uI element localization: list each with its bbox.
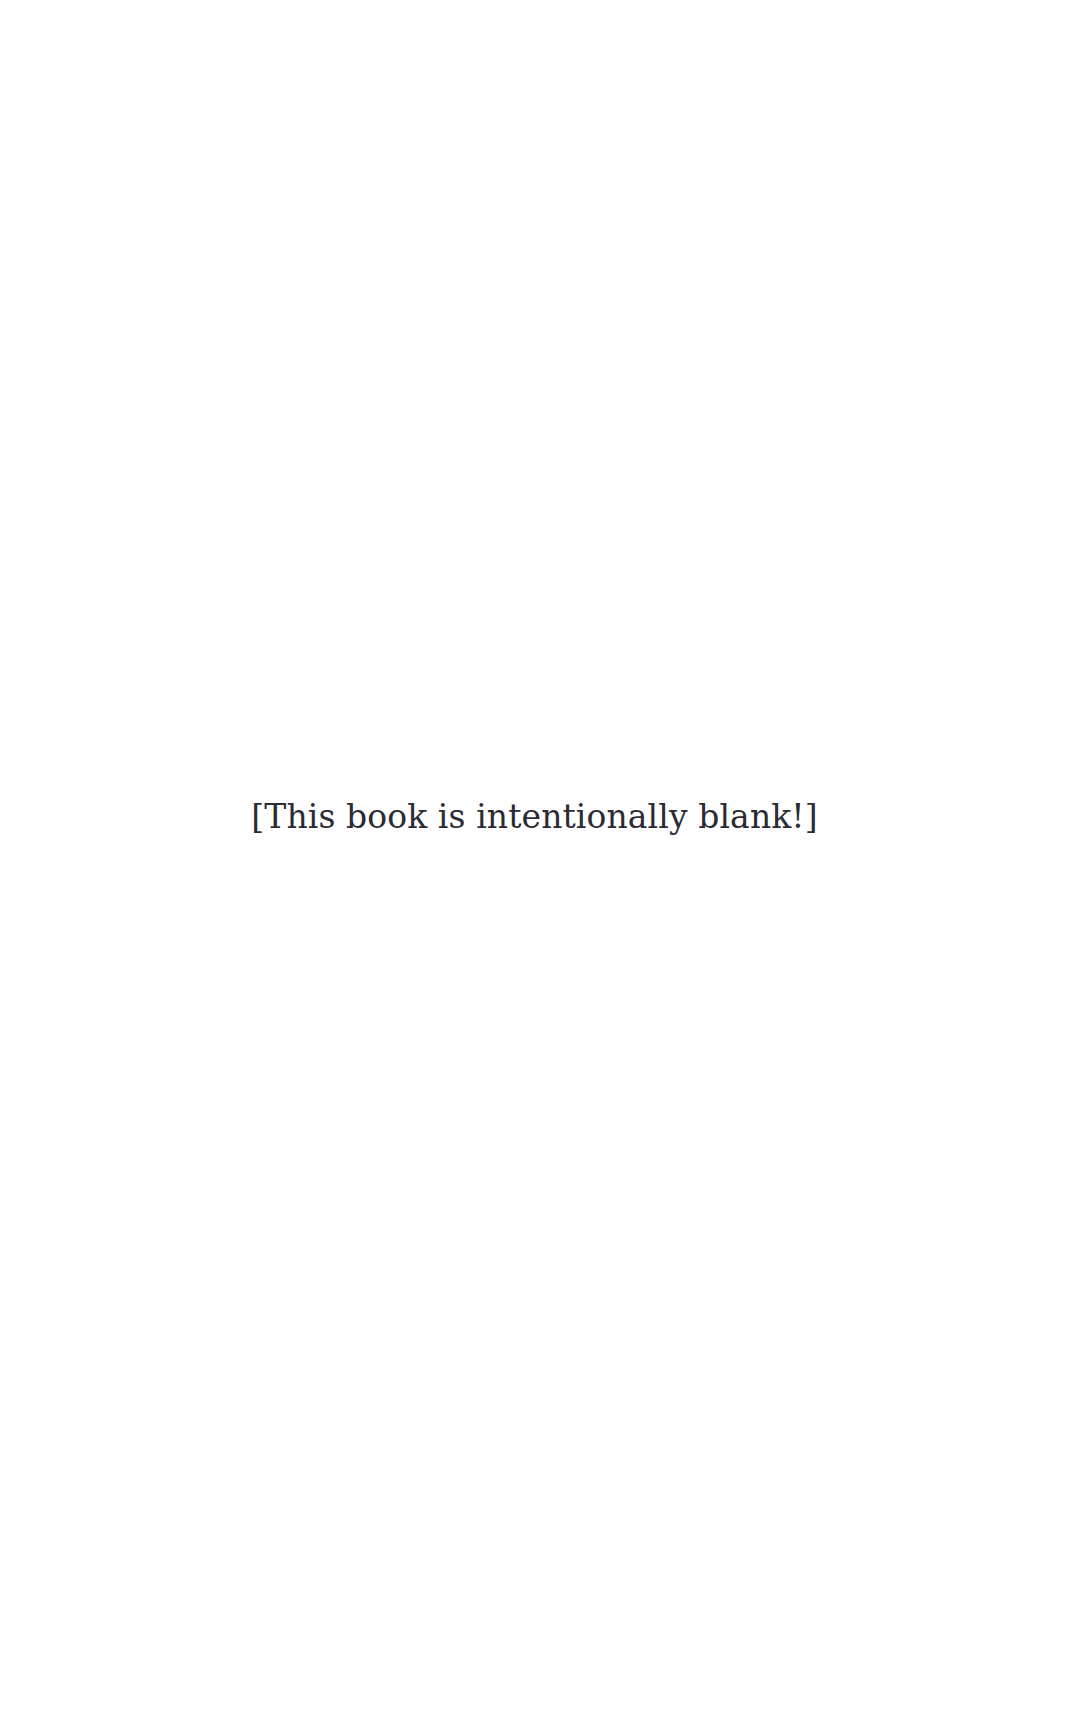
blank-area-above-notice <box>0 0 1069 780</box>
book-page: [This book is intentionally blank!] <box>0 0 1069 1721</box>
intentionally-blank-notice: [This book is intentionally blank!] <box>0 795 1069 839</box>
blank-area-below-notice <box>0 860 1069 1721</box>
